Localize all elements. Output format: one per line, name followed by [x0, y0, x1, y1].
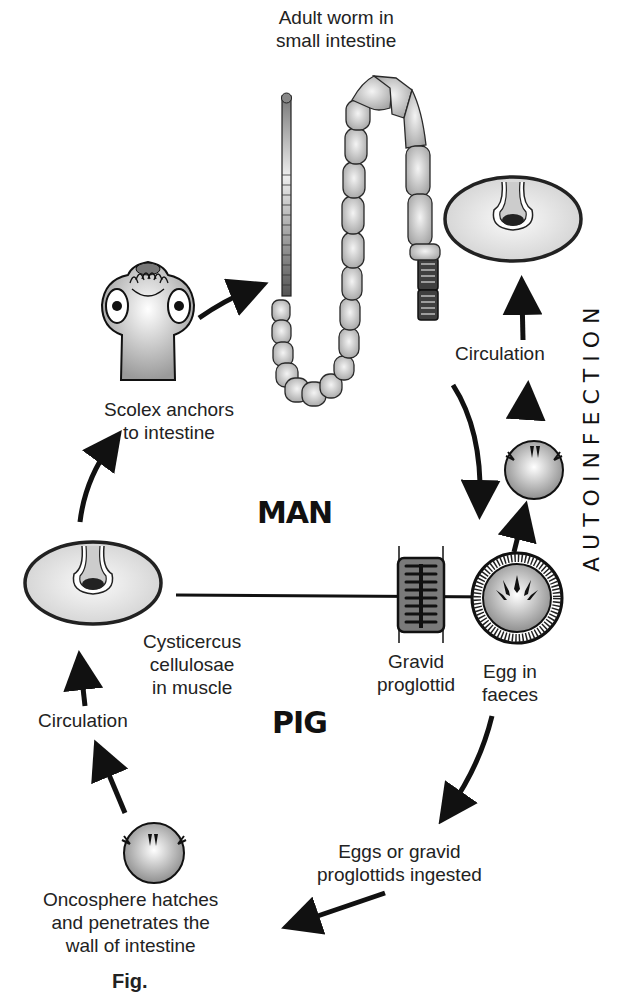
host-label-man: MAN: [257, 495, 332, 530]
label-cysticercus-line2: cellulosae: [143, 653, 241, 676]
arrow-circulation-to-cyst-pig: [81, 670, 85, 706]
label-oncosphere: Oncosphere hatches and penetrates the wa…: [43, 888, 218, 957]
label-egg-in-faeces: Egg in faeces: [482, 660, 538, 706]
label-cysticercus: Cysticercus cellulosae in muscle: [143, 630, 241, 699]
arrow-ingested-to-oncosphere: [300, 893, 385, 922]
label-adult-worm-line1: Adult worm in: [276, 6, 396, 29]
arrow-oncosphere-to-circulation-pig: [102, 758, 125, 813]
oncosphere-autoinfection-illustration: [505, 441, 563, 499]
label-oncosphere-line3: wall of intestine: [43, 934, 218, 957]
oncosphere-pig-illustration: [122, 823, 186, 883]
label-scolex-line2: to intestine: [104, 421, 234, 444]
arrow-scolex-to-worm: [199, 290, 250, 318]
label-ingested-line2: proglottids ingested: [317, 863, 482, 886]
gravid-proglottid-illustration: [398, 546, 444, 643]
arrow-faeces-to-ingested: [450, 716, 492, 808]
label-gravid-line1: Gravid: [377, 650, 455, 673]
label-eggs-ingested: Eggs or gravid proglottids ingested: [317, 840, 482, 886]
cysticercus-left-illustration: [25, 542, 161, 624]
arrow-cyst-to-scolex: [80, 446, 110, 522]
arrow-worm-to-egg: [453, 385, 480, 500]
arrow-circulation-to-cyst: [522, 295, 523, 340]
cysticercus-autoinfection-illustration: [445, 177, 581, 261]
label-ingested-line1: Eggs or gravid: [317, 840, 482, 863]
label-gravid-proglottid: Gravid proglottid: [377, 650, 455, 696]
arrow-oncosphere-to-circulation: [526, 400, 527, 415]
figure-caption: Fig.: [112, 970, 148, 993]
label-scolex-line1: Scolex anchors: [104, 398, 234, 421]
adult-worm-illustration: [272, 76, 440, 406]
label-egg-line2: faeces: [482, 683, 538, 706]
label-cysticercus-line1: Cysticercus: [143, 630, 241, 653]
egg-illustration: [472, 553, 562, 643]
label-scolex: Scolex anchors to intestine: [104, 398, 234, 444]
arrow-egg-to-oncosphere: [514, 520, 522, 552]
autoinfection-vertical-label: AUTOINFECTION: [579, 301, 604, 572]
label-egg-line1: Egg in: [482, 660, 538, 683]
host-divider-line: [176, 595, 500, 597]
scolex-illustration: [102, 262, 194, 380]
label-oncosphere-line1: Oncosphere hatches: [43, 888, 218, 911]
label-cysticercus-line3: in muscle: [143, 676, 241, 699]
host-label-pig: PIG: [272, 705, 327, 740]
label-circulation-pig: Circulation: [38, 709, 128, 732]
label-adult-worm: Adult worm in small intestine: [276, 6, 396, 52]
label-adult-worm-line2: small intestine: [276, 29, 396, 52]
label-circulation-autoinfection: Circulation: [455, 342, 545, 365]
label-oncosphere-line2: and penetrates the: [43, 911, 218, 934]
label-gravid-line2: proglottid: [377, 673, 455, 696]
